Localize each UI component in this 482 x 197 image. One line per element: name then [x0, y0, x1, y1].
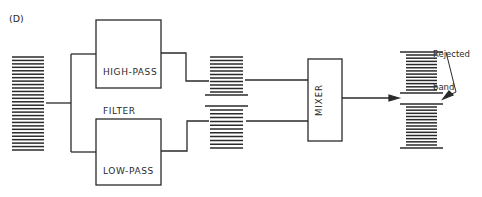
figure-label: (D): [9, 13, 24, 24]
mixer-label: MIXER: [314, 84, 324, 116]
diagram-canvas: [0, 0, 482, 197]
filtered-spectrum: [210, 57, 243, 148]
highpass-output-wire: [161, 53, 209, 81]
low-pass-line1: LOW-PASS: [103, 165, 154, 178]
annotation-line1: Rejected: [433, 49, 470, 60]
rejected-band-annotation: Rejected band: [433, 27, 470, 104]
high-pass-line2: FILTER: [103, 105, 157, 118]
high-pass-line1: HIGH-PASS: [103, 66, 157, 79]
input-spectrum: [12, 57, 44, 150]
lowpass-output-wire: [161, 121, 209, 151]
annotation-line2: band: [433, 82, 470, 93]
low-pass-filter-label: LOW-PASS FILTER: [103, 139, 154, 197]
high-pass-filter-label: HIGH-PASS FILTER: [103, 40, 157, 131]
arrowhead-icon: [389, 95, 399, 101]
